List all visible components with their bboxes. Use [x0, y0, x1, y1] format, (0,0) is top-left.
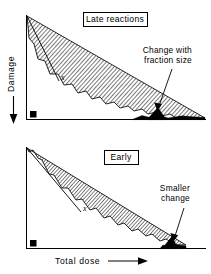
early-curve-label: x: [82, 204, 87, 213]
late-curve-label: x: [60, 73, 65, 82]
panel-early: x Early Smaller change: [26, 147, 206, 249]
late-annotation-line1: Change with: [143, 45, 192, 55]
early-panel-label: Early: [110, 152, 131, 162]
panel-late-reactions: x Late reactions Change with fraction si…: [26, 12, 206, 120]
early-annotation-line2: change: [161, 193, 190, 203]
x-axis-title: Total dose: [55, 256, 100, 266]
schematic-figure: x Late reactions Change with fraction si…: [0, 0, 211, 274]
early-origin-marker: [30, 240, 37, 247]
late-hatched-band: [27, 16, 205, 119]
y-axis-title: Damage: [6, 56, 16, 92]
late-origin-marker: [30, 111, 37, 118]
late-annotation-line2: fraction size: [144, 55, 192, 65]
early-annotation-arrow-shaft: [175, 208, 184, 236]
figure-container: x Late reactions Change with fraction si…: [0, 0, 211, 274]
x-axis-arrow-head: [138, 257, 148, 265]
y-axis-arrow-head: [10, 114, 18, 124]
early-annotation-line1: Smaller: [160, 183, 190, 193]
late-panel-label: Late reactions: [86, 14, 144, 24]
